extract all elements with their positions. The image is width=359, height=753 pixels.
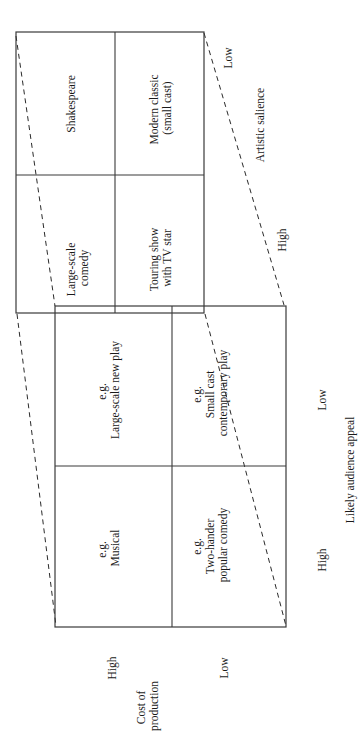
artistic-salience-matrix xyxy=(16,32,204,313)
connector-top-left xyxy=(16,36,55,306)
artistic-matrix-frame xyxy=(16,32,204,313)
cell-two-hander-comedy: e.g. Two-hander popular comedy xyxy=(191,508,230,583)
cost-high-label: High xyxy=(106,656,119,679)
audience-appeal-low-label: Low xyxy=(316,389,328,411)
artistic-salience-axis-title: Artistic salience xyxy=(254,88,266,162)
cell-large-scale-new-play: e.g. Large-scale new play xyxy=(96,341,122,439)
cell-modern-classic: Modern classic (small cast) xyxy=(148,72,174,145)
audience-appeal-axis-title: Likely audience appeal xyxy=(344,417,357,524)
cell-large-scale-comedy: Large-scale comedy xyxy=(65,240,91,296)
cost-of-production-axis-title: Cost of production xyxy=(135,681,161,731)
connector-top-right xyxy=(204,33,284,305)
connector-bottom-left xyxy=(17,314,56,626)
cell-touring-show: Touring show with TV star xyxy=(148,225,173,291)
artistic-salience-high-label: High xyxy=(276,228,289,251)
theatre-production-matrix-diagram: Shakespeare Modern classic (small cast) … xyxy=(0,0,359,753)
cell-shakespeare: Shakespeare xyxy=(65,75,78,132)
audience-appeal-high-label: High xyxy=(316,548,329,571)
cost-low-label: Low xyxy=(218,657,230,679)
artistic-salience-low-label: Low xyxy=(222,47,234,69)
cell-musical: e.g. Musical xyxy=(96,529,121,566)
cell-small-cast-contemporary: e.g. Small cast contemporary play xyxy=(191,349,230,436)
audience-appeal-matrix xyxy=(55,306,286,627)
